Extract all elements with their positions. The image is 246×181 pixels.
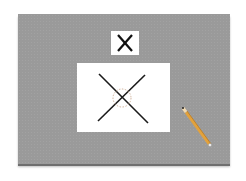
pencil-icon[interactable] (0, 0, 246, 181)
